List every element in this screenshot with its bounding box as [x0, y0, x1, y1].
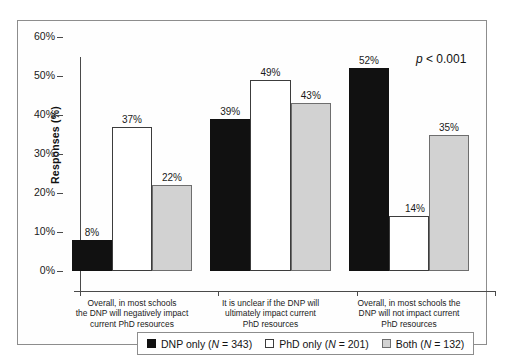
legend-swatch-black: [147, 339, 156, 348]
bar-phd-group3: [389, 216, 429, 271]
category-label-line: DNP will not impact current: [332, 308, 486, 318]
bar-value-label: 14%: [355, 203, 425, 214]
y-axis-tick-label: 30%: [13, 147, 55, 159]
legend-item-1[interactable]: DNP only (N = 343): [147, 338, 252, 350]
category-label-line: PhD resources: [193, 319, 348, 329]
bar-phd-group1: [112, 127, 152, 271]
category-label-line: current PhD resources: [55, 319, 209, 329]
category-label-line: Overall, in most schools the: [332, 298, 486, 308]
p-value-annotation: p < 0.001: [416, 52, 466, 66]
y-axis-tick: [57, 193, 63, 194]
y-axis-tick-label: 60%: [13, 30, 55, 42]
x-axis-tick: [357, 291, 358, 296]
category-label-line: ultimately impact current: [193, 308, 348, 318]
y-axis-tick: [57, 76, 63, 77]
bar-value-label: 35%: [421, 122, 477, 133]
category-label-line: PhD resources: [332, 319, 486, 329]
bar-both-group1: [152, 185, 192, 271]
category-label-line: Overall, in most schools: [55, 298, 209, 308]
figure-frame: Responses (%) 60%50%40%30%20%10%0% 8%37%…: [17, 20, 487, 345]
x-axis-category-label-2: It is unclear if the DNP willultimately …: [193, 298, 348, 329]
p-value-symbol: p: [416, 52, 423, 66]
bar-value-label: 43%: [283, 90, 339, 101]
y-axis-tick: [57, 271, 63, 272]
p-value-text: < 0.001: [423, 52, 467, 66]
bar-both-group3: [429, 135, 469, 272]
category-label-line: It is unclear if the DNP will: [193, 298, 348, 308]
y-axis-tick: [57, 232, 63, 233]
legend-swatch-white: [265, 339, 274, 348]
y-axis-tick-label: 0%: [13, 264, 55, 276]
legend-label: Both (N = 132): [396, 338, 465, 350]
bar-value-label: 49%: [242, 67, 298, 78]
bar-both-group2: [291, 103, 331, 271]
bar-dnp-group1: [72, 240, 112, 271]
y-axis-tick: [57, 154, 63, 155]
category-label-line: the DNP will negatively impact: [55, 308, 209, 318]
legend-swatch-gray: [382, 339, 391, 348]
bar-value-label: 37%: [104, 114, 160, 125]
bar-value-label: 52%: [341, 55, 397, 66]
y-axis-tick-label: 40%: [13, 108, 55, 120]
x-axis-tick: [495, 291, 496, 296]
bar-phd-group2: [250, 80, 290, 271]
x-axis-line: [74, 291, 496, 292]
legend-label: DNP only (N = 343): [161, 338, 252, 350]
x-axis-tick: [218, 291, 219, 296]
y-axis-tick: [57, 37, 63, 38]
legend-label: PhD only (N = 201): [279, 338, 369, 350]
bar-dnp-group2: [210, 119, 250, 271]
y-axis-tick: [57, 115, 63, 116]
x-axis-category-label-1: Overall, in most schoolsthe DNP will neg…: [55, 298, 209, 329]
x-axis-category-label-3: Overall, in most schools theDNP will not…: [332, 298, 486, 329]
bar-value-label: 22%: [144, 172, 200, 183]
y-axis-tick-label: 10%: [13, 225, 55, 237]
chart-legend: DNP only (N = 343)PhD only (N = 201)Both…: [137, 332, 474, 355]
legend-item-3[interactable]: Both (N = 132): [382, 338, 465, 350]
bar-dnp-group3: [349, 68, 389, 271]
x-axis-tick: [80, 291, 81, 296]
legend-item-2[interactable]: PhD only (N = 201): [265, 338, 369, 350]
y-axis-tick-label: 50%: [13, 69, 55, 81]
y-axis-tick-label: 20%: [13, 186, 55, 198]
